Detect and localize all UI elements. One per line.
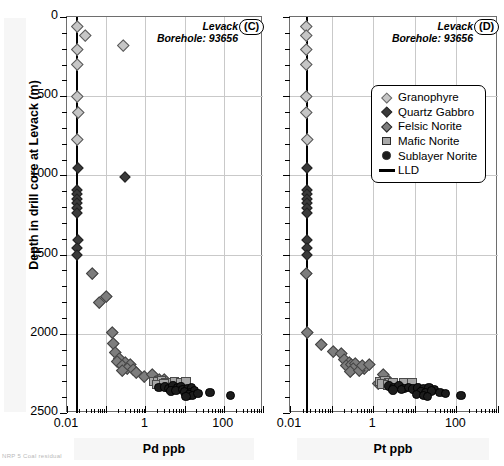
gridline-horizontal: [67, 175, 263, 176]
data-point-granophyre: [301, 90, 313, 102]
x-axis-tick-label: 1: [122, 416, 166, 430]
data-point-felsic-norite: [315, 338, 327, 350]
x-axis-tick-minor: [215, 409, 216, 413]
x-axis-tick-minor: [125, 409, 126, 413]
x-axis-tick-minor: [218, 409, 219, 413]
x-axis-tick-minor: [130, 409, 131, 413]
x-axis-label: Pt ppb: [289, 442, 497, 456]
y-axis-tick-minor: [285, 318, 290, 319]
data-point-sublayer-norite: [205, 388, 215, 398]
x-axis-tick-minor: [236, 409, 237, 413]
x-axis-tick-minor: [489, 409, 490, 413]
legend-label: Sublayer Norite: [398, 150, 477, 162]
legend-item[interactable]: Mafic Norite: [378, 134, 477, 149]
gridline-vertical: [373, 17, 374, 413]
y-axis-tick-minor: [62, 365, 67, 366]
y-axis-tick-minor: [285, 49, 290, 50]
x-axis-tick-minor: [203, 409, 204, 413]
y-axis-tick-major: [283, 17, 290, 18]
x-axis-tick-minor: [440, 409, 441, 413]
x-axis-tick-minor: [179, 409, 180, 413]
x-axis-tick-minor: [261, 409, 262, 413]
x-axis-tick-major: [106, 406, 107, 413]
x-axis-tick-minor: [98, 409, 99, 413]
gridline-horizontal: [290, 255, 498, 256]
x-axis-label: Pd ppb: [66, 442, 262, 456]
x-axis-tick-minor: [259, 409, 260, 413]
legend-symbol-circle-icon: [378, 151, 395, 160]
x-axis-tick-minor: [427, 409, 428, 413]
panel-annotation: LevackBorehole: 93656: [76, 20, 238, 44]
data-point-felsic-norite: [301, 326, 313, 338]
x-axis-tick-minor: [357, 409, 358, 413]
x-axis-tick-minor: [496, 409, 497, 413]
data-point-sublayer-norite: [193, 389, 203, 399]
y-axis-tick-minor: [62, 381, 67, 382]
x-axis-tick-minor: [169, 409, 170, 413]
legend: GranophyreQuartz GabbroFelsic NoriteMafi…: [371, 85, 486, 183]
x-axis-tick-minor: [476, 409, 477, 413]
y-axis-tick-minor: [62, 128, 67, 129]
x-axis-tick-minor: [100, 409, 101, 413]
x-axis-tick-minor: [303, 409, 304, 413]
x-axis-tick-minor: [481, 409, 482, 413]
x-axis-tick-minor: [367, 409, 368, 413]
x-axis-tick-minor: [196, 409, 197, 413]
x-axis-tick-label: 1: [350, 416, 394, 430]
data-point-granophyre: [301, 106, 313, 118]
data-point-granophyre: [71, 43, 83, 55]
data-point-granophyre: [301, 43, 313, 55]
y-axis-tick-minor: [285, 365, 290, 366]
y-axis-tick-minor: [62, 80, 67, 81]
x-axis-tick-minor: [406, 409, 407, 413]
x-axis-tick-minor: [139, 409, 140, 413]
x-axis-tick-minor: [435, 409, 436, 413]
legend-symbol-line-icon: [378, 169, 395, 172]
y-axis-tick-major: [60, 334, 67, 335]
data-point-felsic-norite: [301, 268, 313, 280]
x-axis-tick-major: [67, 406, 68, 413]
gridline-horizontal: [67, 96, 263, 97]
x-axis-tick-minor: [79, 409, 80, 413]
x-axis-tick-minor: [494, 409, 495, 413]
y-axis-tick-minor: [285, 33, 290, 34]
gridline-vertical: [224, 17, 225, 413]
y-axis-tick-minor: [285, 128, 290, 129]
y-axis-tick-label: 2000: [12, 325, 58, 339]
legend-item[interactable]: Quartz Gabbro: [378, 105, 477, 120]
legend-item[interactable]: Felsic Norite: [378, 119, 477, 134]
x-axis-tick-minor: [164, 409, 165, 413]
x-axis-tick-major: [224, 406, 225, 413]
y-axis-tick-major: [60, 255, 67, 256]
x-axis-tick-minor: [413, 409, 414, 413]
legend-item[interactable]: Sublayer Norite: [378, 148, 477, 163]
x-axis-tick-minor: [257, 409, 258, 413]
y-axis-tick-major: [283, 255, 290, 256]
annotation-title: Levack: [299, 20, 473, 32]
legend-symbol-diamond-icon: [378, 123, 395, 131]
x-axis-tick-minor: [134, 409, 135, 413]
x-axis-tick-minor: [86, 409, 87, 413]
gridline-vertical: [145, 17, 146, 413]
y-axis-tick-minor: [285, 397, 290, 398]
y-axis-tick-major: [60, 175, 67, 176]
x-axis-tick-major: [498, 406, 499, 413]
data-point-granophyre: [72, 106, 84, 118]
y-axis-tick-label: 1000: [12, 166, 58, 180]
x-axis-tick-minor: [450, 409, 451, 413]
x-axis-tick-minor: [315, 409, 316, 413]
y-label-shade: [4, 18, 26, 412]
plot-area-pt: [289, 16, 497, 412]
gridline-vertical: [456, 17, 457, 413]
x-axis-tick-minor: [371, 409, 372, 413]
legend-item[interactable]: LLD: [378, 163, 477, 178]
x-axis-tick-minor: [181, 409, 182, 413]
x-axis-tick-minor: [222, 409, 223, 413]
y-axis-tick-minor: [62, 397, 67, 398]
y-axis-tick-minor: [62, 49, 67, 50]
y-axis-tick-major: [283, 96, 290, 97]
x-axis-tick-minor: [251, 409, 252, 413]
panel-tag-d: (D): [474, 19, 499, 35]
legend-item[interactable]: Granophyre: [378, 90, 477, 105]
x-axis-tick-minor: [361, 409, 362, 413]
